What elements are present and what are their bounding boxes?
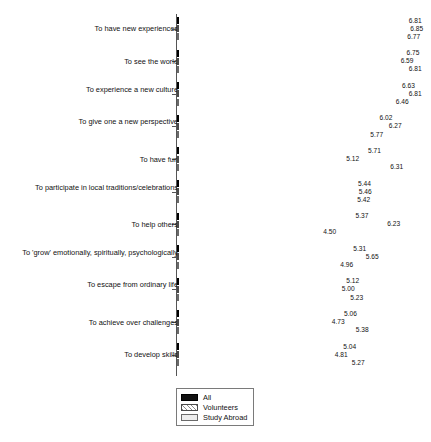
bar-fill (177, 262, 179, 269)
bar-value-label: 5.42 (355, 195, 370, 204)
horizontal-grouped-bar-chart: To have new experiences6.816.856.77To se… (0, 0, 431, 442)
bar-fill (177, 319, 179, 326)
bar-fill (177, 286, 179, 293)
bar-fill (177, 33, 179, 40)
category-label: To help others (3, 220, 178, 229)
bar-fill (177, 58, 179, 65)
bar-value-label: 5.71 (366, 146, 381, 155)
bar-fill (177, 229, 179, 236)
legend-label-volunteers: Volunteers (203, 403, 238, 412)
bar: 6.81 (177, 17, 407, 24)
bar-fill (177, 343, 179, 350)
bar: 5.23 (177, 294, 348, 301)
bar-fill (177, 180, 179, 187)
bar: 5.27 (177, 359, 350, 366)
bar-value-label: 6.31 (388, 162, 403, 171)
bar-fill (177, 156, 179, 163)
category-label: To escape from ordinary life (3, 280, 178, 289)
bar-value-label: 4.81 (333, 350, 348, 359)
chart-legend: All Volunteers Study Abroad (176, 388, 254, 426)
bar: 5.44 (177, 180, 356, 187)
category-label: To achieve over challenges (3, 318, 178, 327)
bar-value-label: 4.73 (330, 317, 345, 326)
bar: 6.02 (177, 115, 378, 122)
legend-label-all: All (203, 393, 211, 402)
legend-item-study-abroad: Study Abroad (181, 412, 247, 422)
bar-fill (177, 188, 179, 195)
volunteers-swatch (181, 404, 198, 411)
category-label: To participate in local traditions/celeb… (3, 183, 178, 192)
category-label: To 'grow' emotionally, spiritually, psyc… (3, 248, 178, 257)
bar: 6.27 (177, 123, 387, 130)
bar: 5.42 (177, 196, 355, 203)
bar-fill (177, 82, 179, 89)
bar: 5.77 (177, 131, 368, 138)
bar-fill (177, 278, 179, 285)
bar: 5.06 (177, 310, 342, 317)
all-swatch (181, 394, 198, 401)
bar-fill (177, 253, 179, 260)
bar-fill (177, 90, 179, 97)
bar-fill (177, 221, 179, 228)
category-label: To develop skills (3, 350, 178, 359)
bar: 4.81 (177, 351, 333, 358)
legend-item-all: All (181, 392, 247, 402)
bar: 4.96 (177, 262, 338, 269)
bar-value-label: 5.27 (350, 358, 365, 367)
bar-fill (177, 99, 179, 106)
plot-area: To have new experiences6.816.856.77To se… (0, 0, 431, 382)
bar-value-label: 6.81 (407, 89, 422, 98)
bar-fill (177, 25, 179, 32)
bar: 6.81 (177, 66, 407, 73)
bar: 5.46 (177, 188, 357, 195)
bar: 6.75 (177, 50, 405, 57)
bar-fill (177, 351, 179, 358)
bar-fill (177, 245, 179, 252)
bar: 6.23 (177, 221, 385, 228)
bar-fill (177, 131, 179, 138)
legend-label-study-abroad: Study Abroad (203, 413, 247, 422)
bar-fill (177, 17, 179, 24)
bar-fill (177, 115, 179, 122)
bar: 6.81 (177, 90, 407, 97)
bar: 6.31 (177, 164, 388, 171)
bar-value-label: 4.50 (321, 227, 336, 236)
bar-fill (177, 294, 179, 301)
bar-fill (177, 123, 179, 130)
study-abroad-swatch (181, 414, 198, 421)
bar-value-label: 4.96 (338, 260, 353, 269)
bar: 5.12 (177, 156, 344, 163)
bar-value-label: 6.77 (405, 32, 420, 41)
bar-value-label: 6.46 (394, 97, 409, 106)
bar: 6.77 (177, 33, 405, 40)
category-label: To see the world (3, 57, 178, 66)
bar-value-label: 6.27 (387, 121, 402, 130)
category-label: To give one a new perspective (3, 117, 178, 126)
bar: 5.31 (177, 245, 351, 252)
category-label: To have fun (3, 155, 178, 164)
bar: 6.63 (177, 82, 400, 89)
category-label: To have new experiences (3, 24, 178, 33)
bar-fill (177, 327, 179, 334)
bar-fill (177, 147, 179, 154)
bar-value-label: 6.23 (385, 219, 400, 228)
bar: 6.46 (177, 99, 394, 106)
bar-fill (177, 50, 179, 57)
bar: 4.50 (177, 229, 321, 236)
bar-value-label: 5.65 (364, 252, 379, 261)
bar-value-label: 5.38 (354, 325, 369, 334)
bar-value-label: 5.12 (344, 154, 359, 163)
category-label: To experience a new culture (3, 85, 178, 94)
bar: 5.65 (177, 253, 364, 260)
bar: 6.85 (177, 25, 408, 32)
bar: 5.00 (177, 286, 340, 293)
bar-fill (177, 359, 179, 366)
bar: 5.12 (177, 278, 344, 285)
bar-fill (177, 310, 179, 317)
bar-fill (177, 66, 179, 73)
bar-fill (177, 196, 179, 203)
bar: 5.71 (177, 147, 366, 154)
bar-value-label: 6.81 (407, 64, 422, 73)
bar-fill (177, 164, 179, 171)
bar: 5.04 (177, 343, 341, 350)
